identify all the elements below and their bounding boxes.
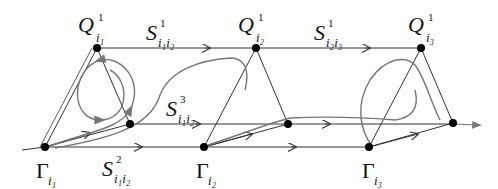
label-Q-i1: Q 1 i₁	[78, 14, 94, 36]
label-S1-i2i3: S 1 i₂i₃	[314, 22, 325, 44]
node-Q-i3	[417, 44, 425, 52]
node-Gamma-i1	[41, 143, 49, 151]
label-Gamma-i3: Γ i₃	[362, 160, 375, 182]
label-S2-i1i2: S 2 i₁i₂	[102, 158, 113, 180]
bottom-connections	[22, 147, 369, 150]
node-Gamma-i3	[365, 143, 373, 151]
label-Gamma-i1: Γ i₁	[36, 160, 49, 182]
node-Gamma-i2	[200, 143, 208, 151]
label-Q-i3: Q 1 i₃	[408, 14, 424, 36]
label-S3-i1i2: S 3 i₁i₂	[166, 98, 177, 120]
node-mid-3	[449, 119, 457, 127]
node-mid-2	[284, 120, 292, 128]
node-mid-1	[126, 120, 134, 128]
node-Q-i2	[252, 44, 260, 52]
label-Gamma-i2: Γ i₂	[196, 160, 209, 182]
trajectories	[50, 58, 440, 148]
label-S1-i1i2: S 1 i₁i₂	[146, 22, 157, 44]
label-Q-i2: Q 1 i₂	[238, 14, 254, 36]
node-Q-i1	[93, 44, 101, 52]
